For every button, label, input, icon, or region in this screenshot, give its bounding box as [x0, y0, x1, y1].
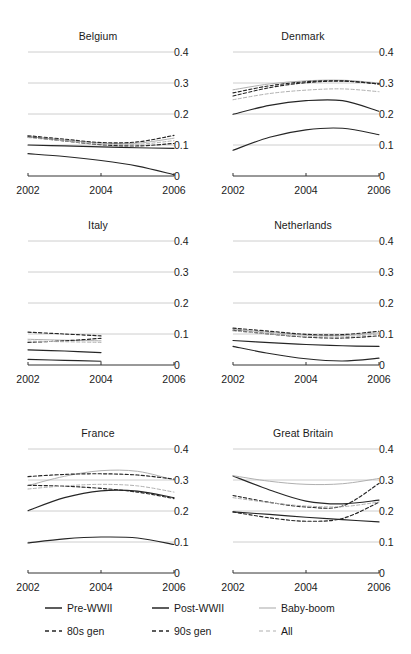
series-line-post-wwii: [233, 346, 379, 361]
y-axis-label: 0.1: [174, 140, 189, 150]
chart-legend: Pre-WWIIPost-WWIIBaby-boom80s gen90s gen…: [0, 596, 411, 648]
x-axis-label: 2004: [286, 185, 326, 196]
legend-swatch-icon: [45, 627, 62, 635]
y-axis-label: 0.3: [379, 78, 394, 88]
y-axis-label: 0.4: [379, 236, 394, 246]
x-axis-label: 2006: [154, 374, 194, 385]
series-line-pre-wwii: [233, 341, 379, 347]
panel-title: Denmark: [227, 30, 379, 42]
y-axis-label: 0.3: [379, 475, 394, 485]
legend-swatch-icon: [259, 604, 276, 612]
x-axis-label: 2006: [359, 582, 399, 593]
y-axis-label: 0: [379, 360, 385, 370]
x-axis-label: 2002: [213, 185, 253, 196]
legend-row: 80s gen90s genAll: [0, 619, 411, 642]
y-axis-label: 0.2: [174, 298, 189, 308]
legend-swatch-icon: [259, 627, 276, 635]
legend-label: All: [281, 625, 293, 637]
y-axis-label: 0.2: [379, 298, 394, 308]
legend-item-all[interactable]: All: [259, 625, 366, 637]
x-axis-label: 2002: [8, 582, 48, 593]
y-axis-label: 0.2: [379, 506, 394, 516]
series-line-post-wwii: [233, 128, 379, 150]
x-axis-label: 2006: [359, 185, 399, 196]
panel-title: Netherlands: [227, 219, 379, 231]
y-axis-label: 0: [174, 360, 180, 370]
x-axis-label: 2004: [286, 374, 326, 385]
series-line-80s-gen: [233, 483, 379, 508]
panel-title: France: [22, 427, 174, 439]
y-axis-label: 0.3: [174, 267, 189, 277]
panel-netherlands: Netherlands00.10.20.30.4200220042006: [227, 219, 411, 397]
x-axis-label: 2004: [286, 582, 326, 593]
y-axis-label: 0.3: [174, 475, 189, 485]
y-axis-label: 0.1: [379, 537, 394, 547]
y-axis-label: 0.4: [174, 236, 189, 246]
x-axis-label: 2006: [359, 374, 399, 385]
legend-swatch-icon: [45, 604, 62, 612]
panel-france: France00.10.20.30.4200220042006: [22, 427, 212, 605]
y-axis-label: 0.2: [379, 109, 394, 119]
y-axis-label: 0.3: [379, 267, 394, 277]
series-line-pre-wwii: [28, 490, 174, 511]
y-axis-label: 0.4: [174, 444, 189, 454]
series-line-post-wwii: [28, 537, 174, 545]
legend-item-post-wwii[interactable]: Post-WWII: [152, 602, 259, 614]
y-axis-label: 0.1: [379, 140, 394, 150]
y-axis-label: 0.2: [174, 109, 189, 119]
legend-label: Baby-boom: [281, 602, 335, 614]
panel-title: Great Britain: [227, 427, 379, 439]
series-line-post-wwii: [28, 154, 174, 175]
y-axis-label: 0: [174, 171, 180, 181]
panel-belgium: Belgium00.10.20.30.4200220042006: [22, 30, 212, 208]
x-axis-label: 2006: [154, 582, 194, 593]
y-axis-label: 0: [174, 568, 180, 578]
x-axis-label: 2004: [81, 185, 121, 196]
x-axis-label: 2004: [81, 374, 121, 385]
y-axis-label: 0.1: [174, 329, 189, 339]
panel-title: Belgium: [22, 30, 174, 42]
legend-item-80s-gen[interactable]: 80s gen: [45, 625, 152, 637]
series-line-pre-wwii: [28, 350, 101, 353]
series-line-post-wwii: [28, 359, 101, 361]
legend-item-90s-gen[interactable]: 90s gen: [152, 625, 259, 637]
series-line-pre-wwii: [233, 100, 379, 115]
legend-label: 80s gen: [67, 625, 104, 637]
y-axis-label: 0.4: [379, 47, 394, 57]
y-axis-label: 0.4: [379, 444, 394, 454]
panel-italy: Italy00.10.20.30.4200220042006: [22, 219, 212, 397]
y-axis-label: 0: [379, 568, 385, 578]
x-axis-label: 2002: [8, 185, 48, 196]
x-axis-label: 2006: [154, 185, 194, 196]
legend-item-pre-wwii[interactable]: Pre-WWII: [45, 602, 152, 614]
panel-denmark: Denmark00.10.20.30.4200220042006: [227, 30, 411, 208]
x-axis-label: 2002: [213, 582, 253, 593]
legend-item-baby-boom[interactable]: Baby-boom: [259, 602, 366, 614]
legend-label: Post-WWII: [174, 602, 224, 614]
y-axis-label: 0.4: [174, 47, 189, 57]
legend-swatch-icon: [152, 627, 169, 635]
y-axis-label: 0.1: [379, 329, 394, 339]
legend-label: 90s gen: [174, 625, 211, 637]
series-line-baby-boom: [28, 470, 174, 485]
legend-row: Pre-WWIIPost-WWIIBaby-boom: [0, 596, 411, 619]
x-axis-label: 2004: [81, 582, 121, 593]
panel-great-britain: Great Britain00.10.20.30.4200220042006: [227, 427, 411, 605]
x-axis-label: 2002: [213, 374, 253, 385]
small-multiples-figure: Belgium00.10.20.30.4200220042006Denmark0…: [0, 0, 411, 654]
legend-label: Pre-WWII: [67, 602, 113, 614]
x-axis-label: 2002: [8, 374, 48, 385]
y-axis-label: 0.1: [174, 537, 189, 547]
y-axis-label: 0.2: [174, 506, 189, 516]
y-axis-label: 0.3: [174, 78, 189, 88]
legend-swatch-icon: [152, 604, 169, 612]
panel-title: Italy: [22, 219, 174, 231]
y-axis-label: 0: [379, 171, 385, 181]
